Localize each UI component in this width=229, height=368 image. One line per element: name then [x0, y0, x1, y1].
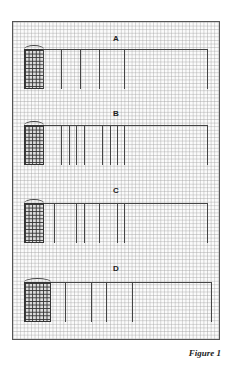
- panel-c-tick: [124, 203, 125, 243]
- panel-label-d: D: [13, 264, 219, 273]
- panel-a-tick: [124, 49, 125, 89]
- panel-d-tick: [91, 282, 92, 322]
- panel-b-hatched-block: [24, 125, 44, 165]
- panel-b-tick: [117, 125, 118, 165]
- panel-a-hatched-block: [24, 49, 44, 89]
- panel-c-tick: [54, 203, 55, 243]
- panel-d-baseline: [24, 282, 211, 283]
- panel-a-tick: [99, 49, 100, 89]
- panel-b-tick: [69, 125, 70, 165]
- panel-d-tick: [106, 282, 107, 322]
- panel-c-tick: [99, 203, 100, 243]
- panel-a-tick: [80, 49, 81, 89]
- panel-d-tick: [132, 282, 133, 322]
- panel-d-tick: [65, 282, 66, 322]
- panel-b-tick: [76, 125, 77, 165]
- panel-d-hatched-block: [24, 282, 51, 322]
- panel-b-tick: [61, 125, 62, 165]
- panel-a-baseline: [24, 49, 207, 50]
- panel-c-tick: [84, 203, 85, 243]
- figure-caption: Figure 1: [189, 348, 221, 358]
- panel-b-tick: [110, 125, 111, 165]
- panel-c-end-tick: [207, 203, 208, 243]
- panel-c-tick: [76, 203, 77, 243]
- panel-c-baseline: [24, 203, 207, 204]
- panel-b-baseline: [24, 125, 207, 126]
- panel-b-tick: [124, 125, 125, 165]
- graph-paper-frame: A B C D: [12, 21, 220, 340]
- panel-b-tick: [102, 125, 103, 165]
- panel-a-tick: [43, 49, 44, 89]
- panel-label-c: C: [13, 186, 219, 195]
- panel-a-end-tick: [207, 49, 208, 89]
- panel-c-hatched-block: [24, 203, 44, 243]
- panel-d-end-tick: [211, 282, 212, 322]
- panel-b-end-tick: [207, 125, 208, 165]
- panel-c-tick: [117, 203, 118, 243]
- panel-label-b: B: [13, 109, 219, 118]
- panel-a-tick: [61, 49, 62, 89]
- panel-b-tick: [84, 125, 85, 165]
- panel-label-a: A: [13, 34, 219, 43]
